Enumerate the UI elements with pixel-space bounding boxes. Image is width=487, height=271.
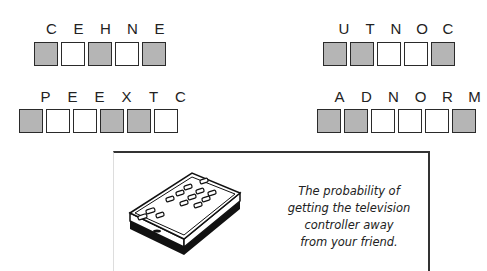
letter: E [59, 88, 86, 105]
answer-box-shaded[interactable] [431, 42, 455, 66]
letter: N [383, 20, 409, 37]
letter: E [86, 88, 113, 105]
letter: H [92, 20, 119, 37]
answer-box-shaded[interactable] [34, 42, 58, 66]
letter: X [113, 88, 140, 105]
letter: P [32, 88, 59, 105]
clue-panel: The probability of getting the televisio… [113, 151, 430, 271]
answer-box-shaded[interactable] [142, 42, 166, 66]
letter: C [167, 88, 194, 105]
caption-line: getting the television [274, 200, 424, 217]
letter: E [146, 20, 173, 37]
letter: C [435, 20, 461, 37]
caption-line: from your friend. [274, 234, 424, 251]
letter: N [380, 88, 407, 105]
letter: A [326, 88, 353, 105]
answer-box[interactable] [61, 42, 85, 66]
scrambled-letters: U T N O C [331, 20, 461, 37]
letter: R [434, 88, 461, 105]
answer-box-shaded[interactable] [317, 109, 341, 133]
tv-remote-icon [122, 165, 262, 265]
answer-box-shaded[interactable] [344, 109, 368, 133]
letter: C [38, 20, 65, 37]
answer-box[interactable] [73, 109, 97, 133]
caption-line: controller away [274, 217, 424, 234]
answer-boxes [19, 109, 181, 133]
answer-box-shaded[interactable] [88, 42, 112, 66]
letter: O [407, 88, 434, 105]
letter: O [409, 20, 435, 37]
letter: N [119, 20, 146, 37]
answer-box[interactable] [425, 109, 449, 133]
scrambled-letters: A D N O R M [326, 88, 487, 105]
letter: T [357, 20, 383, 37]
scrambled-letters: C E H N E [38, 20, 173, 37]
answer-box-shaded[interactable] [100, 109, 124, 133]
answer-boxes [317, 109, 479, 133]
answer-boxes [323, 42, 458, 66]
answer-box[interactable] [115, 42, 139, 66]
answer-box[interactable] [154, 109, 178, 133]
clue-caption: The probability of getting the televisio… [274, 183, 424, 251]
answer-box[interactable] [371, 109, 395, 133]
answer-box[interactable] [404, 42, 428, 66]
letter: T [140, 88, 167, 105]
answer-box-shaded[interactable] [323, 42, 347, 66]
answer-box-shaded[interactable] [452, 109, 476, 133]
letter: E [65, 20, 92, 37]
answer-boxes [34, 42, 169, 66]
caption-line: The probability of [274, 183, 424, 200]
letter: U [331, 20, 357, 37]
scrambled-letters: P E E X T C [32, 88, 194, 105]
letter: M [461, 88, 487, 105]
answer-box-shaded[interactable] [350, 42, 374, 66]
answer-box[interactable] [398, 109, 422, 133]
answer-box-shaded[interactable] [127, 109, 151, 133]
answer-box[interactable] [377, 42, 401, 66]
answer-box[interactable] [46, 109, 70, 133]
letter: D [353, 88, 380, 105]
answer-box-shaded[interactable] [19, 109, 43, 133]
